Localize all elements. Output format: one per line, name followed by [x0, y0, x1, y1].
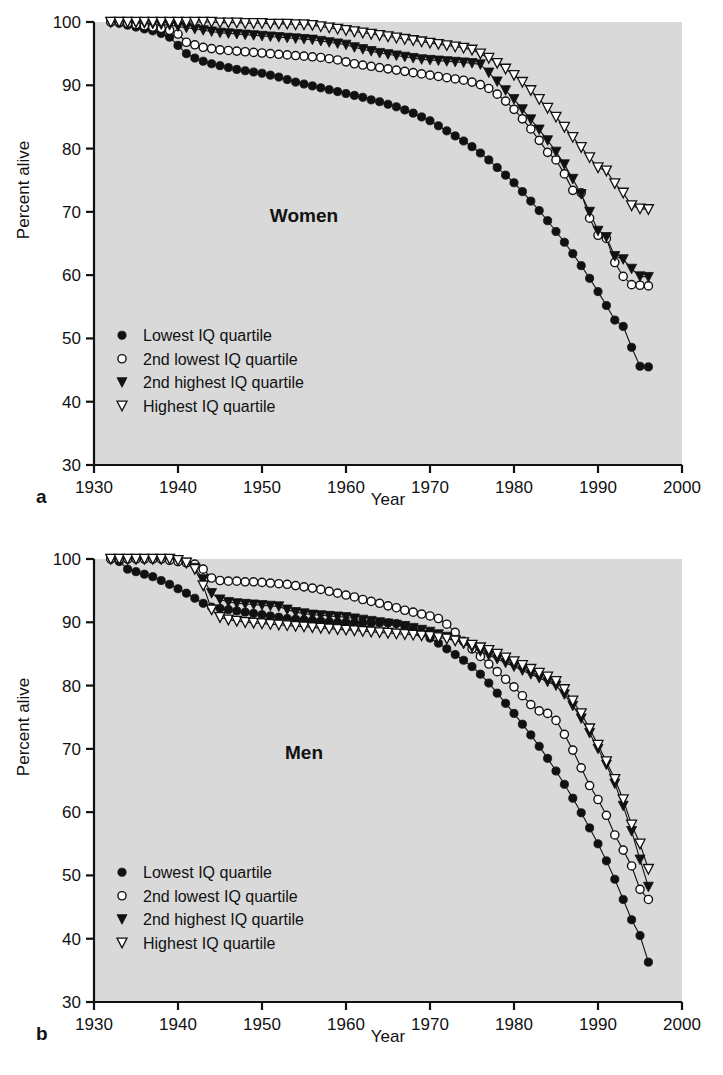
x-axis-label-men: Year: [94, 1027, 682, 1047]
y-tick-label: 80: [62, 677, 81, 696]
y-axis-label-women: Percent alive: [14, 90, 34, 290]
y-tick-label: 60: [62, 266, 81, 285]
legend-label: 2nd lowest IQ quartile: [143, 351, 298, 368]
panel-women: 3040506070809010019301940195019601970198…: [0, 0, 723, 537]
y-tick-label: 40: [62, 393, 81, 412]
panel-letter-a: a: [36, 486, 47, 508]
legend-label: Lowest IQ quartile: [143, 327, 272, 344]
y-tick-label: 40: [62, 930, 81, 949]
y-tick-label: 100: [53, 13, 81, 32]
y-tick-label: 90: [62, 613, 81, 632]
legend-label: 2nd lowest IQ quartile: [143, 888, 298, 905]
y-tick-label: 50: [62, 866, 81, 885]
y-tick-label: 80: [62, 140, 81, 159]
legend-label: 2nd highest IQ quartile: [143, 911, 304, 928]
legend-label: Highest IQ quartile: [143, 935, 276, 952]
legend-label: Lowest IQ quartile: [143, 864, 272, 881]
legend-label: 2nd highest IQ quartile: [143, 374, 304, 391]
panel-letter-b: b: [36, 1023, 48, 1045]
panel-title: Men: [285, 742, 323, 763]
figure-survival-by-iq-quartile: 3040506070809010019301940195019601970198…: [0, 0, 723, 1075]
y-tick-label: 30: [62, 993, 81, 1012]
y-axis-label-men: Percent alive: [14, 627, 34, 827]
y-tick-label: 70: [62, 740, 81, 759]
x-axis-label-women: Year: [94, 490, 682, 510]
y-tick-label: 90: [62, 76, 81, 95]
y-tick-label: 30: [62, 456, 81, 475]
legend-label: Highest IQ quartile: [143, 398, 276, 415]
y-tick-label: 100: [53, 550, 81, 569]
y-tick-label: 60: [62, 803, 81, 822]
panel-men: 3040506070809010019301940195019601970198…: [0, 537, 723, 1074]
y-tick-label: 70: [62, 203, 81, 222]
panel-title: Women: [270, 205, 338, 226]
women-plot-svg: 3040506070809010019301940195019601970198…: [0, 0, 723, 537]
y-tick-label: 50: [62, 329, 81, 348]
men-plot-svg: 3040506070809010019301940195019601970198…: [0, 537, 723, 1074]
